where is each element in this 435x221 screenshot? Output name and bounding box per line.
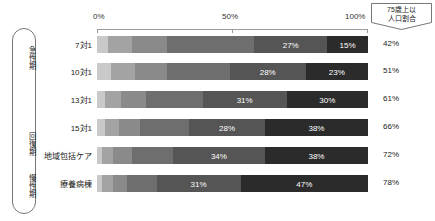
annotation-column-header: 75歳上以 人口割合 — [371, 3, 432, 30]
bar-segment-5: 28% — [189, 119, 265, 136]
bar-segment-label: 15% — [327, 40, 368, 49]
x-axis-tick-50 — [232, 29, 233, 33]
annotation-value: 51% — [383, 66, 423, 75]
bar-segment-label: 27% — [254, 40, 327, 49]
row-label: 療養病棟 — [40, 178, 92, 189]
x-axis-tick-0 — [97, 29, 98, 33]
callout-text: 75歳上以 人口割合 — [371, 6, 432, 23]
bar-segment-label: 31% — [203, 95, 287, 104]
bar-stack: 28% 38% — [97, 119, 368, 136]
bar-segment-2 — [105, 91, 121, 108]
bar-segment-5: 31% — [157, 175, 241, 192]
bar-segment-3 — [113, 147, 132, 164]
bar-segment-label: 34% — [173, 151, 265, 160]
callout-line-1: 75歳上以 — [371, 6, 432, 15]
bar-segment-6: 15% — [327, 36, 368, 53]
annotation-value: 61% — [383, 94, 423, 103]
x-axis-label-0: 0% — [93, 12, 105, 21]
bar-segment-5: 27% — [254, 36, 327, 53]
bar-segment-label: 38% — [265, 151, 368, 160]
row-label: 13対1 — [40, 94, 92, 105]
bar-segment-label: 47% — [241, 179, 368, 188]
bar-stack: 31% 30% — [97, 91, 368, 108]
bar-segment-2 — [108, 36, 132, 53]
bar-segment-3 — [132, 36, 167, 53]
table-row: 7対1 27% 15% 42% — [0, 34, 435, 56]
table-row: 15対1 28% 38% 66% — [0, 117, 435, 139]
bar-segment-6: 30% — [287, 91, 368, 108]
bar-segment-1 — [97, 119, 105, 136]
bar-segment-6: 38% — [265, 119, 368, 136]
bar-stack: 31% 47% — [97, 175, 368, 192]
bar-segment-3 — [121, 91, 145, 108]
bar-segment-label: 28% — [189, 123, 265, 132]
bar-segment-6: 38% — [265, 147, 368, 164]
bar-stack: 28% 23% — [97, 63, 368, 80]
bar-segment-5: 28% — [230, 63, 306, 80]
annotation-value: 72% — [383, 150, 423, 159]
annotation-value: 66% — [383, 122, 423, 131]
table-row: 10対1 28% 23% 51% — [0, 61, 435, 83]
bar-segment-label: 31% — [157, 179, 241, 188]
bar-segment-4 — [127, 175, 157, 192]
bar-segment-4 — [146, 91, 203, 108]
bar-stack: 34% 38% — [97, 147, 368, 164]
bar-segment-4 — [132, 147, 173, 164]
bar-segment-6: 47% — [241, 175, 368, 192]
bar-stack: 27% 15% — [97, 36, 368, 53]
bar-segment-5: 34% — [173, 147, 265, 164]
bar-segment-4 — [167, 63, 229, 80]
bar-segment-5: 31% — [203, 91, 287, 108]
bar-segment-label: 23% — [306, 67, 368, 76]
annotation-value: 42% — [383, 39, 423, 48]
row-label: 10対1 — [40, 66, 92, 77]
bar-segment-4 — [140, 119, 189, 136]
x-axis-label-50: 50% — [222, 12, 238, 21]
annotation-value: 78% — [383, 178, 423, 187]
row-label: 7対1 — [40, 39, 92, 50]
bar-segment-label: 30% — [287, 95, 368, 104]
bar-segment-6: 23% — [306, 63, 368, 80]
row-label: 地域包括ケア — [40, 150, 92, 161]
stacked-bar-chart: 急性期 回復期 慢性期 0% 50% 100% 75歳上以 人口割合 7対1 2… — [0, 0, 435, 221]
x-axis-label-100: 100% — [345, 12, 365, 21]
bar-segment-2 — [105, 119, 119, 136]
bar-segment-1 — [97, 63, 111, 80]
table-row: 地域包括ケア 34% 38% 72% — [0, 145, 435, 167]
bar-segment-2 — [111, 63, 135, 80]
bar-segment-4 — [167, 36, 254, 53]
bar-segment-2 — [102, 175, 113, 192]
x-axis-tick-100 — [367, 29, 368, 33]
bar-segment-3 — [113, 175, 127, 192]
table-row: 療養病棟 31% 47% 78% — [0, 173, 435, 195]
bar-segment-1 — [97, 91, 105, 108]
bar-segment-3 — [135, 63, 168, 80]
bar-segment-label: 38% — [265, 123, 368, 132]
table-row: 13対1 31% 30% 61% — [0, 89, 435, 111]
bar-segment-1 — [97, 36, 108, 53]
bar-segment-2 — [102, 147, 113, 164]
bar-segment-3 — [119, 119, 141, 136]
callout-line-2: 人口割合 — [371, 15, 432, 24]
row-label: 15対1 — [40, 122, 92, 133]
bar-segment-label: 28% — [230, 67, 306, 76]
